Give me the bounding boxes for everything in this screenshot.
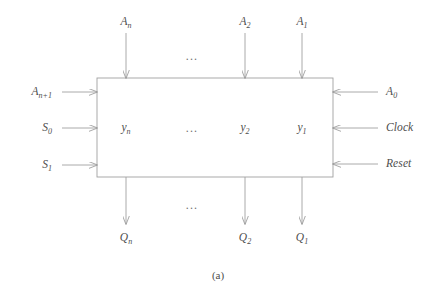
right-input-arrows <box>333 92 378 164</box>
ellipsis-top: ... <box>186 50 198 62</box>
top-input-arrows <box>126 33 302 78</box>
bottom-output-label-Qn: Qn <box>120 232 132 244</box>
bottom-output-arrows <box>126 177 302 224</box>
right-input-label-A0: A0 <box>386 86 397 98</box>
ellipsis-internal: ... <box>186 122 198 134</box>
left-input-label-S1: S1 <box>42 159 52 171</box>
top-input-label-A1: A1 <box>296 16 307 28</box>
ellipsis-bottom: ... <box>186 199 198 211</box>
top-input-label-A2: A2 <box>239 16 250 28</box>
left-input-label-An1: An+1 <box>31 86 52 98</box>
bottom-output-label-Q1: Q1 <box>296 232 308 244</box>
left-input-label-S0: S0 <box>42 122 52 134</box>
left-input-arrows <box>62 92 97 165</box>
internal-label-y1: y1 <box>297 122 306 134</box>
diagram-canvas <box>0 0 436 291</box>
internal-label-yn: yn <box>121 122 130 134</box>
figure-caption: (a) <box>212 270 224 281</box>
right-input-label-clock: Clock <box>386 122 413 134</box>
figure-block-diagram: An A2 A1 An+1 S0 S1 A0 Clock Reset yn y2… <box>0 0 436 291</box>
bottom-output-label-Q2: Q2 <box>239 232 251 244</box>
internal-label-y2: y2 <box>240 122 249 134</box>
right-input-label-reset: Reset <box>386 158 411 170</box>
top-input-label-An: An <box>120 16 131 28</box>
